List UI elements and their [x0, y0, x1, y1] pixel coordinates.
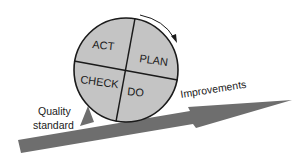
quadrant-act-label: ACT: [92, 38, 115, 52]
pdca-wheel: ACT PLAN CHECK DO: [74, 18, 178, 122]
quadrant-do-label: DO: [127, 85, 145, 99]
pdca-diagram: ACT PLAN CHECK DO Quality standard Impro…: [0, 0, 306, 159]
quality-standard-label-line2: standard: [33, 119, 74, 131]
improvements-label: Improvements: [179, 78, 247, 100]
quality-standard-label-line1: Quality: [38, 105, 71, 117]
